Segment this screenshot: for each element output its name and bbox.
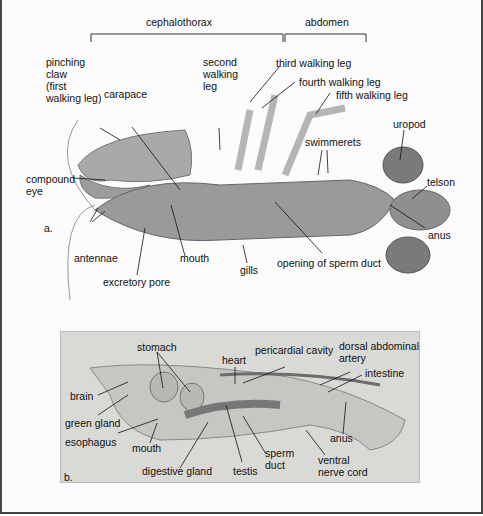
sperm-duct-label: sperm duct xyxy=(265,447,294,471)
green-gland-label: green gland xyxy=(65,417,120,429)
pericardial-cavity-label: pericardial cavity xyxy=(255,344,333,356)
digestive-gland-label: digestive gland xyxy=(142,465,212,477)
esophagus-label: esophagus xyxy=(65,436,116,448)
intestine-label: intestine xyxy=(365,367,404,379)
panel-b-marker: b. xyxy=(64,471,73,483)
brain-label: brain xyxy=(70,390,93,402)
anus-label-b: anus xyxy=(330,432,353,444)
mouth-label-b: mouth xyxy=(132,442,161,454)
dorsal-abdominal-artery-label: dorsal abdominal artery xyxy=(339,340,419,364)
heart-label: heart xyxy=(222,354,246,366)
ventral-nerve-cord-label: ventral nerve cord xyxy=(318,454,368,478)
stomach-label: stomach xyxy=(137,341,177,353)
testis-label: testis xyxy=(233,465,258,477)
